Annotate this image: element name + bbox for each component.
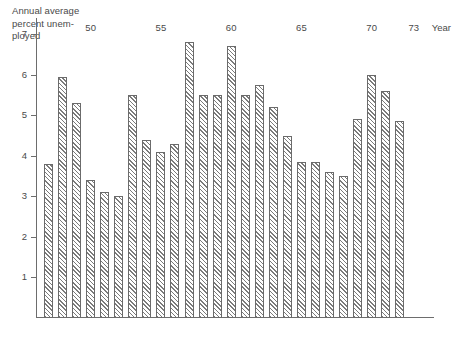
x-tick-label-60: 60 [226, 22, 237, 33]
bar-1969 [353, 119, 362, 318]
bar-1956 [170, 144, 179, 318]
bar-1955 [156, 152, 165, 318]
y-tick-label: 1 [22, 270, 27, 283]
bar-1971 [381, 91, 390, 318]
y-tick-2: 2 [31, 237, 37, 238]
bar-1961 [241, 95, 250, 318]
x-tick-label-73: 73 [409, 22, 420, 33]
bar-1953 [128, 95, 137, 318]
y-tick-6: 6 [31, 75, 37, 76]
bar-1970 [367, 75, 376, 318]
x-tick-label-50: 50 [85, 22, 96, 33]
bar-1948 [58, 77, 67, 318]
y-axis-line [36, 18, 37, 318]
bar-1951 [100, 192, 109, 318]
bar-1950 [86, 180, 95, 318]
x-tick-label-55: 55 [156, 22, 167, 33]
bar-1954 [142, 140, 151, 318]
bar-1958 [199, 95, 208, 318]
y-tick-label: 6 [22, 68, 27, 81]
bar-1968 [339, 176, 348, 318]
x-axis-title: Year [432, 22, 451, 33]
y-tick-label: 2 [22, 230, 27, 243]
y-tick-label: 5 [22, 108, 27, 121]
y-tick-5: 5 [31, 115, 37, 116]
y-tick-label: 4 [22, 149, 27, 162]
plot-area: 1234567 505560657073 Year [36, 18, 454, 318]
x-tick-label-70: 70 [366, 22, 377, 33]
bar-1965 [297, 162, 306, 318]
y-tick-3: 3 [31, 196, 37, 197]
bar-1962 [255, 85, 264, 318]
bar-1960 [227, 46, 236, 318]
y-tick-label: 7 [22, 27, 27, 40]
y-tick-label: 3 [22, 189, 27, 202]
bar-1963 [269, 107, 278, 318]
y-tick-4: 4 [31, 156, 37, 157]
x-tick-label-65: 65 [296, 22, 307, 33]
bar-1966 [311, 162, 320, 318]
bar-1952 [114, 196, 123, 318]
bar-1947 [44, 164, 53, 318]
bar-1972 [395, 121, 404, 318]
y-tick-7: 7 [31, 34, 37, 35]
bar-1959 [213, 95, 222, 318]
bar-1949 [72, 103, 81, 318]
y-tick-1: 1 [31, 277, 37, 278]
unemployment-bar-chart: Annual average percent unem- ployed 1234… [0, 0, 467, 349]
bar-1967 [325, 172, 334, 318]
bar-1957 [185, 42, 194, 318]
bar-1964 [283, 136, 292, 318]
